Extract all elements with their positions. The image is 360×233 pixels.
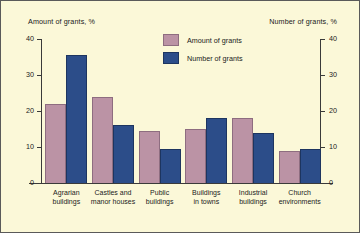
right-tick-label: 30 (329, 70, 337, 79)
left-tick-label: 0 (30, 178, 34, 187)
left-tick-mark (37, 39, 41, 40)
bar-number-of-grants (300, 149, 321, 183)
bar-number-of-grants (113, 125, 134, 183)
right-tick-mark (321, 183, 325, 184)
left-tick-mark (37, 111, 41, 112)
category-label: Churchenvironments (270, 189, 330, 206)
bar-amount-of-grants (45, 104, 66, 183)
chart-figure: Amount of grants, % Number of grants, % … (0, 0, 360, 233)
right-tick-mark (321, 111, 325, 112)
right-tick-label: 20 (329, 106, 337, 115)
left-tick-label: 40 (26, 34, 34, 43)
right-tick-label: 40 (329, 34, 337, 43)
bar-group (45, 39, 87, 183)
category-label-line: environments (270, 198, 330, 207)
left-tick-label: 10 (26, 142, 34, 151)
x-axis-baseline (29, 183, 333, 184)
bar-amount-of-grants (92, 97, 113, 183)
bar-group (279, 39, 321, 183)
right-tick-label: 0 (329, 178, 333, 187)
left-tick-mark (37, 75, 41, 76)
bar-group (92, 39, 134, 183)
left-tick-label: 20 (26, 106, 34, 115)
bar-number-of-grants (253, 133, 274, 183)
right-axis-title: Number of grants, % (269, 17, 337, 26)
bar-number-of-grants (160, 149, 181, 183)
bar-amount-of-grants (279, 151, 300, 183)
bar-group (185, 39, 227, 183)
right-tick-label: 10 (329, 142, 337, 151)
bar-amount-of-grants (232, 118, 253, 183)
bar-amount-of-grants (185, 129, 206, 183)
bar-group (232, 39, 274, 183)
category-label-line: Church (270, 189, 330, 198)
right-tick-mark (321, 39, 325, 40)
left-axis-line (41, 39, 42, 183)
left-axis-title: Amount of grants, % (28, 17, 95, 26)
bar-group (139, 39, 181, 183)
left-tick-mark (37, 147, 41, 148)
bar-number-of-grants (206, 118, 227, 183)
bar-number-of-grants (66, 55, 87, 183)
plot-area: 010203040 010203040 AgrarianbuildingsCas… (41, 39, 321, 183)
left-tick-mark (37, 183, 41, 184)
bar-amount-of-grants (139, 131, 160, 183)
left-tick-label: 30 (26, 70, 34, 79)
right-tick-mark (321, 75, 325, 76)
right-tick-mark (321, 147, 325, 148)
